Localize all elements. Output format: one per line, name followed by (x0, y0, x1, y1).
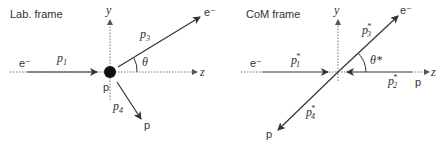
z-axis-label: z (430, 65, 436, 79)
theta-label: θ (142, 55, 148, 69)
recoil-proton-arrow (278, 72, 338, 130)
recoil-proton-label: p (266, 128, 272, 140)
incoming-electron-label: e⁻ (19, 57, 31, 69)
scattered-electron-label: e⁻ (204, 6, 216, 18)
panel-title: CoM frame (246, 8, 300, 20)
p2-star-label: p*2 (387, 73, 397, 90)
theta-arc (134, 58, 137, 72)
scattered-electron-arrow (118, 17, 200, 67)
p4-star-label: p*4 (305, 104, 315, 121)
panel-title: Lab. frame (10, 8, 63, 20)
p3-label: p3 (139, 27, 150, 43)
scattering-diagram: Lab. frame y z e⁻ p1 p e⁻ p3 θ p p4 CoM … (0, 0, 446, 146)
z-axis-label: z (199, 65, 205, 79)
p4-label: p4 (112, 99, 123, 115)
theta-star-label: θ* (370, 53, 382, 67)
com-frame-panel: CoM frame y z e⁻ p*1 p p*2 e⁻ p*3 θ* p p… (241, 3, 436, 140)
p1-star-label: p*1 (290, 52, 300, 69)
lab-frame-panel: Lab. frame y z e⁻ p1 p e⁻ p3 θ p p4 (10, 3, 216, 131)
y-axis-label: y (105, 3, 112, 17)
p3-star-label: p*3 (361, 22, 371, 39)
incoming-proton-label: p (415, 76, 421, 88)
scattered-electron-label: e⁻ (400, 4, 412, 16)
p1-label: p1 (56, 51, 67, 67)
recoil-proton-label: p (144, 119, 150, 131)
y-axis-label: y (333, 3, 340, 17)
incoming-electron-label: e⁻ (250, 57, 262, 69)
target-proton-label: p (103, 81, 109, 93)
target-proton-dot (104, 66, 116, 78)
theta-star-arc (358, 53, 366, 72)
